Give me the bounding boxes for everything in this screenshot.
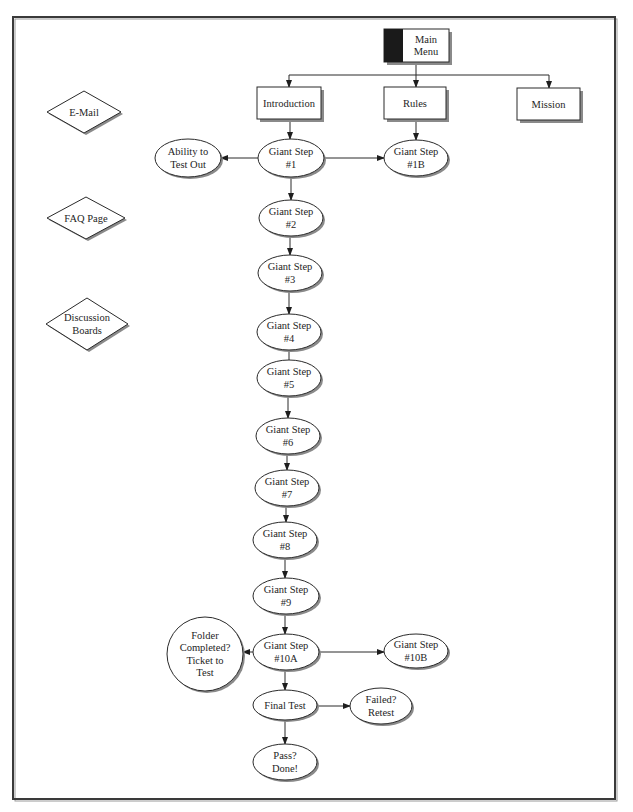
node-label: Boards: [72, 325, 102, 336]
node-faq: FAQ Page: [47, 197, 127, 241]
node-step9: Giant Step#9: [253, 578, 321, 616]
node-label: Menu: [414, 46, 439, 57]
node-label: #5: [284, 379, 295, 390]
node-label: Test Out: [170, 159, 206, 170]
node-main-menu: MainMenu: [384, 29, 452, 65]
node-label: #10A: [274, 653, 298, 664]
frame-border: [13, 17, 615, 799]
node-label: Folder: [191, 630, 219, 641]
node-label: Giant Step: [269, 146, 314, 157]
node-failed: Failed?Retest: [350, 688, 414, 726]
node-label: #4: [284, 333, 295, 344]
node-label: Test: [196, 667, 213, 678]
node-label: #6: [283, 437, 294, 448]
node-label: Introduction: [263, 98, 316, 109]
node-label: Ability to: [168, 146, 209, 157]
node-step7: Giant Step#7: [255, 470, 321, 508]
node-mission: Mission: [517, 88, 583, 123]
node-label: #7: [282, 489, 293, 500]
node-label: Giant Step: [268, 261, 313, 272]
node-label: #8: [280, 541, 291, 552]
node-discussion: DiscussionBoards: [46, 298, 130, 352]
node-folder: FolderCompleted?Ticket toTest: [167, 617, 245, 693]
node-label: Final Test: [264, 700, 305, 711]
node-final-test: Final Test: [253, 690, 319, 722]
nodes: MainMenuIntroductionRulesMissionE-MailFA…: [46, 29, 583, 782]
node-label: Pass?: [273, 750, 297, 761]
node-label: #1: [286, 159, 297, 170]
node-label: #1B: [407, 159, 425, 170]
node-pass: Pass?Done!: [253, 744, 319, 782]
node-step5: Giant Step#5: [257, 360, 323, 398]
node-label: Giant Step: [267, 320, 312, 331]
node-label: FAQ Page: [64, 213, 108, 224]
node-label: Retest: [368, 707, 394, 718]
node-ability: Ability toTest Out: [155, 139, 223, 179]
node-label: Giant Step: [269, 206, 314, 217]
node-step2: Giant Step#2: [259, 200, 325, 238]
node-label: Giant Step: [265, 476, 310, 487]
node-label: Main: [415, 34, 438, 45]
node-step8: Giant Step#8: [253, 522, 319, 560]
node-introduction: Introduction: [257, 87, 324, 122]
node-step3: Giant Step#3: [258, 255, 324, 293]
node-label: Completed?: [180, 642, 231, 653]
node-step10a: Giant Step#10A: [253, 634, 321, 672]
node-label: Discussion: [64, 312, 111, 323]
node-label: Giant Step: [264, 584, 309, 595]
node-label: Done!: [272, 763, 298, 774]
node-step6: Giant Step#6: [256, 418, 322, 456]
flowchart-diagram: MainMenuIntroductionRulesMissionE-MailFA…: [0, 0, 633, 812]
node-rules: Rules: [384, 87, 449, 122]
node-label: E-Mail: [69, 107, 99, 118]
node-step10b: Giant Step#10B: [384, 634, 450, 670]
node-label: #9: [281, 597, 292, 608]
node-label: #10B: [405, 652, 428, 663]
node-label: Giant Step: [394, 146, 439, 157]
node-label: Giant Step: [263, 528, 308, 539]
node-step1: Giant Step#1: [258, 139, 326, 179]
node-step4: Giant Step#4: [257, 314, 323, 352]
node-label: #3: [285, 274, 296, 285]
menu-tab-block: [384, 29, 403, 62]
node-label: Rules: [403, 98, 427, 109]
page-frame: [13, 17, 617, 801]
node-label: Failed?: [366, 694, 397, 705]
node-label: Mission: [532, 99, 567, 110]
node-label: Giant Step: [267, 366, 312, 377]
node-step1b: Giant Step#1B: [384, 140, 450, 178]
node-label: Giant Step: [394, 639, 439, 650]
node-label: #2: [286, 219, 297, 230]
node-label: Giant Step: [266, 424, 311, 435]
node-label: Ticket to: [186, 655, 223, 666]
node-email: E-Mail: [47, 91, 123, 135]
node-label: Giant Step: [264, 640, 309, 651]
